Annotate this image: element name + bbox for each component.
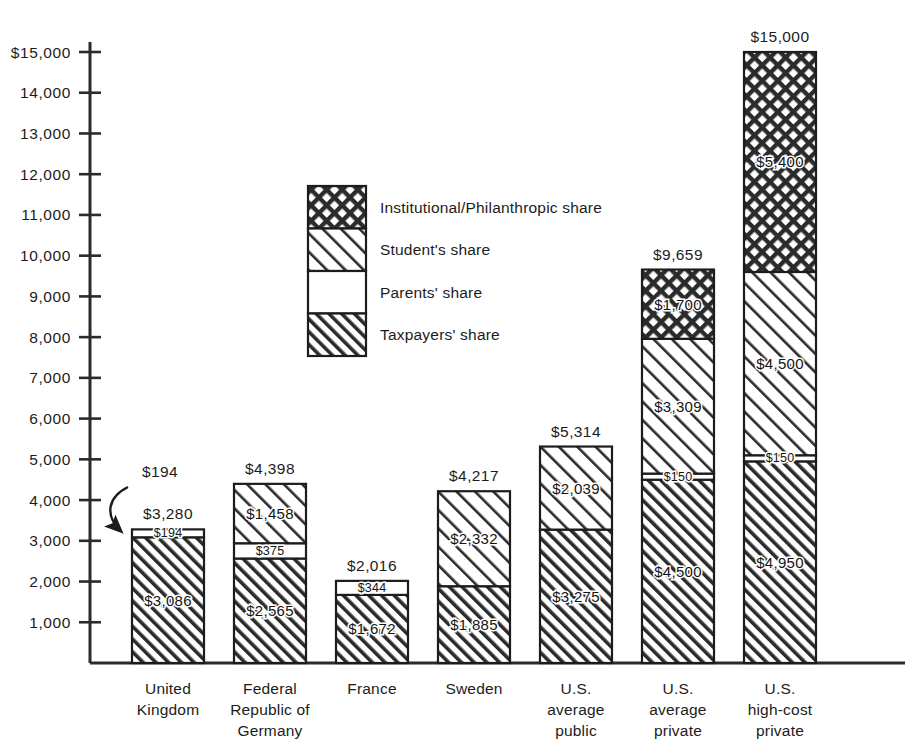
bar-total-label: $4,217$4,217 — [449, 467, 499, 484]
legend-label: Parents' share — [380, 284, 482, 301]
annotation-label: $194$194 — [142, 463, 178, 480]
svg-text:$1,885: $1,885 — [450, 616, 498, 633]
bars-group — [132, 52, 816, 663]
segment-value-label: $4,950$4,950 — [756, 554, 804, 571]
segment-value-label: $150$150 — [664, 470, 693, 484]
y-axis-tick-label: 4,000 — [29, 492, 71, 509]
bar-total-label: $4,398$4,398 — [245, 460, 295, 477]
svg-text:$3,086: $3,086 — [144, 592, 192, 609]
svg-text:$4,500: $4,500 — [654, 563, 702, 580]
legend-swatch — [308, 314, 366, 357]
segment-value-label: $3,309$3,309 — [654, 398, 702, 415]
chart-canvas: $15,00014,00013,00012,00011,00010,0009,0… — [0, 0, 915, 745]
segment-value-label: $3,086$3,086 — [144, 592, 192, 609]
category-label-line: United — [145, 680, 191, 697]
segment-value-label: $2,565$2,565 — [246, 602, 294, 619]
bar-total-label: $2,016$2,016 — [347, 557, 397, 574]
segment-value-label: $1,700$1,700 — [654, 296, 702, 313]
bar-total-label: $15,000$15,000 — [751, 28, 810, 45]
svg-text:$2,016: $2,016 — [347, 557, 397, 574]
segment-value-label: $375$375 — [256, 544, 285, 558]
category-label-line: public — [555, 722, 597, 739]
segment-value-label: $150$150 — [766, 451, 795, 465]
legend-swatch — [308, 186, 366, 229]
svg-text:$2,332: $2,332 — [450, 530, 498, 547]
y-axis-tick-label: 5,000 — [29, 451, 71, 468]
legend-swatch — [308, 271, 366, 314]
annotation-arrow — [110, 487, 128, 531]
legend-label: Taxpayers' share — [380, 326, 500, 343]
category-label-line: U.S. — [765, 680, 796, 697]
y-axis-tick-label: 1,000 — [29, 614, 71, 631]
x-axis-category-label: FederalRepublic ofGermany — [230, 680, 310, 739]
svg-text:$15,000: $15,000 — [751, 28, 810, 45]
bar-total-label: $3,280$3,280 — [143, 505, 193, 522]
segment-value-label: $1,458$1,458 — [246, 505, 294, 522]
svg-text:$5,400: $5,400 — [756, 153, 804, 170]
y-axis-tick-label: $15,000 — [11, 44, 71, 61]
y-axis-tick-label: 9,000 — [29, 288, 71, 305]
y-axis-tick-label: 7,000 — [29, 369, 71, 386]
chart-legend: Institutional/Philanthropic shareStudent… — [308, 186, 602, 356]
y-axis-tick-label: 12,000 — [20, 166, 71, 183]
category-label-line: Republic of — [230, 701, 310, 718]
y-axis-tick-label: 13,000 — [20, 125, 71, 142]
svg-text:$344: $344 — [358, 581, 387, 595]
svg-text:$194: $194 — [154, 526, 183, 540]
svg-text:$2,565: $2,565 — [246, 602, 294, 619]
x-axis-category-label: France — [347, 680, 396, 697]
svg-text:$4,398: $4,398 — [245, 460, 295, 477]
svg-text:$3,275: $3,275 — [552, 588, 600, 605]
category-label-line: Germany — [237, 722, 302, 739]
category-label-line: private — [756, 722, 804, 739]
x-axis-category-label: U.S.averageprivate — [649, 680, 706, 739]
category-label-line: U.S. — [561, 680, 592, 697]
svg-text:$5,314: $5,314 — [551, 423, 601, 440]
x-axis-category-labels: UnitedKingdomFederalRepublic ofGermanyFr… — [137, 680, 813, 739]
x-axis-category-label: U.S.averagepublic — [547, 680, 604, 739]
category-label-line: Kingdom — [137, 701, 200, 718]
category-label-line: average — [547, 701, 604, 718]
segment-value-label: $5,400$5,400 — [756, 153, 804, 170]
y-axis-tick-label: 11,000 — [21, 206, 71, 223]
category-label-line: average — [649, 701, 706, 718]
category-label-line: Federal — [243, 680, 297, 697]
svg-text:$4,217: $4,217 — [449, 467, 499, 484]
segment-value-label: $3,275$3,275 — [552, 588, 600, 605]
svg-text:$194: $194 — [142, 463, 178, 480]
y-axis-tick-label: 8,000 — [29, 329, 71, 346]
svg-text:$150: $150 — [664, 470, 693, 484]
segment-value-label: $4,500$4,500 — [654, 563, 702, 580]
x-axis-category-label: UnitedKingdom — [137, 680, 200, 718]
segment-value-label: $1,672$1,672 — [348, 620, 396, 637]
svg-text:$4,500: $4,500 — [756, 355, 804, 372]
legend-swatch — [308, 229, 366, 272]
category-label-line: U.S. — [663, 680, 694, 697]
segment-value-label: $2,332$2,332 — [450, 530, 498, 547]
y-axis-tick-label: 6,000 — [29, 410, 71, 427]
svg-text:$2,039: $2,039 — [552, 480, 600, 497]
segment-value-label: $344$344 — [358, 581, 387, 595]
svg-text:$9,659: $9,659 — [653, 246, 703, 263]
category-label-line: France — [347, 680, 396, 697]
svg-text:$4,950: $4,950 — [756, 554, 804, 571]
segment-value-label: $4,500$4,500 — [756, 355, 804, 372]
category-label-line: high-cost — [748, 701, 813, 718]
svg-text:$375: $375 — [256, 544, 285, 558]
svg-text:$150: $150 — [766, 451, 795, 465]
svg-text:$3,309: $3,309 — [654, 398, 702, 415]
bar-total-label: $5,314$5,314 — [551, 423, 601, 440]
segment-value-label: $194$194 — [154, 526, 183, 540]
segment-value-label: $1,885$1,885 — [450, 616, 498, 633]
y-axis-tick-label: 2,000 — [29, 573, 71, 590]
y-axis-tick-label: 14,000 — [20, 84, 71, 101]
bar-total-label: $9,659$9,659 — [653, 246, 703, 263]
category-label-line: Sweden — [445, 680, 502, 697]
legend-label: Institutional/Philanthropic share — [380, 199, 602, 216]
svg-text:$3,280: $3,280 — [143, 505, 193, 522]
legend-label: Student's share — [380, 241, 490, 258]
stacked-bar-chart: $15,00014,00013,00012,00011,00010,0009,0… — [0, 0, 915, 745]
y-axis-tick-label: 3,000 — [29, 532, 71, 549]
svg-text:$1,672: $1,672 — [348, 620, 396, 637]
x-axis-category-label: U.S.high-costprivate — [748, 680, 813, 739]
